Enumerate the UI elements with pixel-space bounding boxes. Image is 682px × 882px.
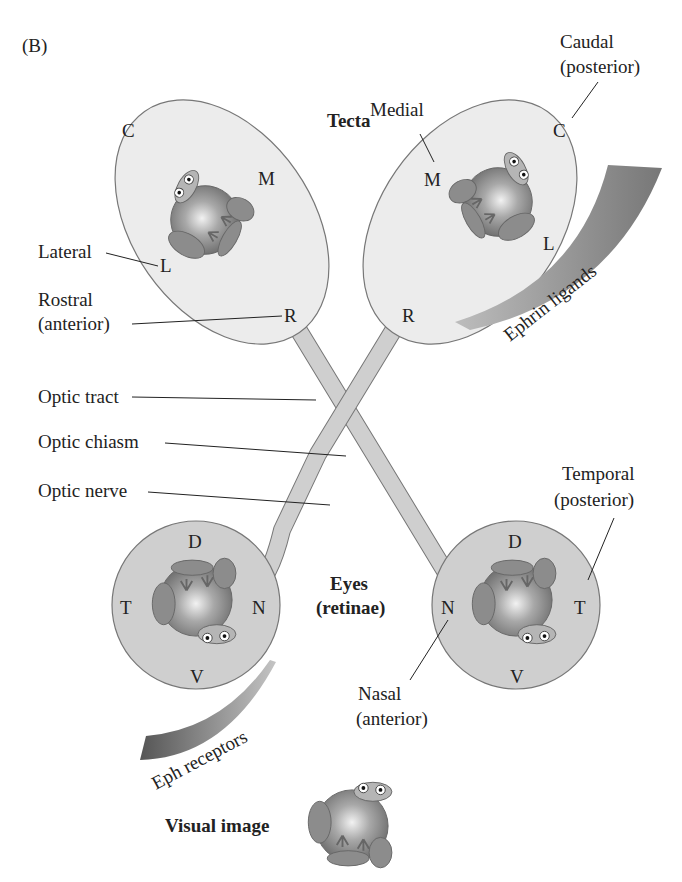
right-tectum-lateral-marker: L: [543, 233, 555, 254]
right-tectum-caudal-marker: C: [553, 120, 566, 141]
nasal-anterior-label: (anterior): [356, 708, 428, 730]
optic-pathway: [252, 316, 478, 592]
left-eye-nasal-marker: N: [252, 597, 266, 618]
left-tectum-lateral-marker: L: [160, 255, 172, 276]
right-tectum-rostral-marker: R: [402, 305, 415, 326]
temporal-posterior-label: (posterior): [554, 489, 634, 511]
optic-chiasm-label: Optic chiasm: [38, 431, 139, 452]
optic-tract-label: Optic tract: [38, 386, 119, 407]
left-eye-temporal-marker: T: [120, 597, 132, 618]
caudal-label: Caudal: [560, 31, 614, 52]
eyes-title: Eyes: [330, 573, 368, 594]
left-tectum-caudal-marker: C: [122, 120, 135, 141]
right-eye-nasal-marker: N: [441, 597, 455, 618]
left-tectum: C M L R: [71, 60, 373, 384]
rostral-label: Rostral: [38, 289, 93, 310]
rostral-anterior-label: (anterior): [38, 313, 110, 335]
temporal-label: Temporal: [562, 463, 635, 484]
nasal-label: Nasal: [358, 683, 401, 704]
tecta-title: Tecta: [327, 110, 371, 131]
left-tectum-medial-marker: M: [258, 168, 275, 189]
visual-image-label: Visual image: [165, 815, 269, 836]
visual-image-frog: [308, 782, 392, 868]
left-eye-dorsal-marker: D: [188, 531, 202, 552]
eyes-retinae-title: (retinae): [316, 597, 385, 619]
lateral-label: Lateral: [38, 241, 92, 262]
optic-nerve-label: Optic nerve: [38, 480, 127, 501]
left-tectum-rostral-marker: R: [284, 305, 297, 326]
right-tectum-medial-marker: M: [424, 169, 441, 190]
right-eye: D N T V: [432, 521, 600, 689]
left-eye: D T N V: [112, 521, 280, 689]
right-eye-temporal-marker: T: [574, 597, 586, 618]
left-eye-ventral-marker: V: [190, 666, 204, 687]
caudal-posterior-label: (posterior): [560, 56, 640, 78]
retinotectal-map-diagram: (B) C M L R C M L R Ephrin ligands Tecta…: [0, 0, 682, 882]
panel-label: (B): [22, 35, 47, 57]
right-eye-dorsal-marker: D: [508, 531, 522, 552]
medial-label: Medial: [370, 99, 424, 120]
right-tectum: C M L R: [319, 60, 621, 384]
right-eye-ventral-marker: V: [510, 666, 524, 687]
